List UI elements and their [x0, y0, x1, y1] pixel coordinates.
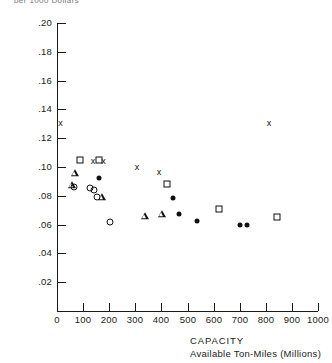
data-point-cross: x: [58, 119, 63, 128]
data-point-triangle: [71, 169, 79, 176]
data-point-filled-circle: [170, 196, 175, 201]
data-point-cross: x: [157, 168, 162, 177]
data-point-open-circle: [93, 194, 100, 201]
data-point-square: [274, 214, 281, 221]
data-point-open-circle: [91, 187, 98, 194]
data-point-filled-circle: [176, 211, 181, 216]
data-point-square: [215, 206, 222, 213]
data-point-cross: x: [267, 119, 272, 128]
data-point-square: [77, 156, 84, 163]
data-point-cross: x: [135, 163, 140, 172]
data-point-open-circle: [71, 184, 78, 191]
x-axis-title: CAPACITY: [190, 335, 244, 346]
data-point-triangle: [158, 210, 166, 217]
x-axis-subtitle: Available Ton-Miles (Millions): [190, 348, 321, 359]
scatter-plot-figure: per 1000 Dollars .02.04.06.08.10.12.14.1…: [0, 0, 332, 363]
data-point-square: [96, 156, 103, 163]
data-point-filled-circle: [194, 219, 199, 224]
data-point-filled-circle: [245, 223, 250, 228]
data-point-filled-circle: [238, 223, 243, 228]
data-point-filled-circle: [96, 175, 101, 180]
data-point-triangle: [141, 212, 149, 219]
plot-area: xxxxxx: [0, 0, 332, 363]
data-point-open-circle: [107, 219, 114, 226]
data-point-square: [163, 181, 170, 188]
